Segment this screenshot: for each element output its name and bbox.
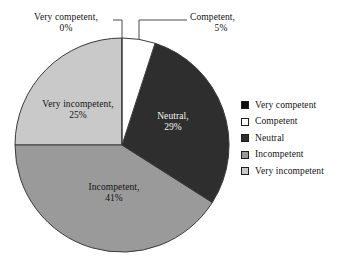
slice-label-competent-value: 5% [190,23,252,34]
legend-swatch-very-incompetent [241,167,249,175]
legend-item-neutral[interactable]: Neutral [241,130,349,147]
legend-label-incompetent: Incompetent [255,150,304,160]
chart-legend: Very competent Competent Neutral Incompe… [241,97,349,180]
legend-label-very-competent: Very competent [255,101,316,111]
slice-label-very-competent-value: 0% [13,23,119,34]
slice-label-neutral-value: 29% [140,122,206,133]
slice-label-very-competent-name: Very competent, [13,12,119,23]
slice-label-competent-name: Competent, [190,12,286,23]
legend-swatch-neutral [241,134,249,142]
pie-slice-very-incompetent[interactable] [15,38,122,145]
slice-label-very-competent: Very competent, 0% [13,12,119,34]
slice-label-incompetent: Incompetent, 41% [62,182,166,204]
legend-label-neutral: Neutral [255,134,284,144]
pie-chart-figure: Very competent, 0% Competent, 5% Neutral… [0,0,352,263]
slice-label-very-incompetent: Very incompetent, 25% [24,99,132,121]
slice-label-neutral: Neutral, 29% [140,111,206,133]
legend-swatch-very-competent [241,101,249,109]
leader-line-competent [139,20,187,40]
legend-label-competent: Competent [255,117,298,127]
slice-label-very-incompetent-value: 25% [24,110,132,121]
slice-label-competent: Competent, 5% [190,12,286,34]
slice-label-very-incompetent-name: Very incompetent, [24,99,132,110]
legend-item-very-competent[interactable]: Very competent [241,97,349,114]
slice-label-incompetent-value: 41% [62,193,166,204]
legend-swatch-incompetent [241,151,249,159]
slice-label-neutral-name: Neutral, [140,111,206,122]
legend-label-very-incompetent: Very incompetent [255,167,324,177]
legend-item-incompetent[interactable]: Incompetent [241,147,349,164]
legend-item-very-incompetent[interactable]: Very incompetent [241,163,349,180]
legend-swatch-competent [241,118,249,126]
legend-item-competent[interactable]: Competent [241,114,349,131]
slice-label-incompetent-name: Incompetent, [62,182,166,193]
